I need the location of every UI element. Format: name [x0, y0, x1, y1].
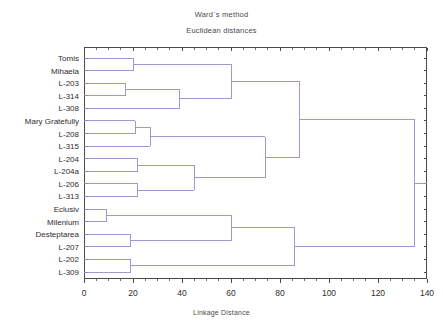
plot-frame — [84, 47, 427, 279]
x-axis-title: Linkage Distance — [0, 309, 443, 316]
leaf-label: L-315 — [0, 142, 84, 151]
x-tick-label: 120 — [371, 288, 385, 298]
leaf-label: Mary Gratefully — [0, 116, 84, 125]
leaf-label: L-204 — [0, 154, 84, 163]
leaf-label: L-204a — [0, 167, 84, 176]
leaf-label: Eclusiv — [0, 205, 84, 214]
leaf-label: L-313 — [0, 192, 84, 201]
leaf-label: L-203 — [0, 79, 84, 88]
x-tick-label: 60 — [226, 288, 235, 298]
leaf-label: L-309 — [0, 268, 84, 277]
x-tick-label: 40 — [177, 288, 186, 298]
x-tick-label: 0 — [82, 288, 87, 298]
x-tick-label: 20 — [128, 288, 137, 298]
leaf-label: L-202 — [0, 255, 84, 264]
x-tick-label: 80 — [275, 288, 284, 298]
leaf-label: Tomis — [0, 54, 84, 63]
leaf-label: L-208 — [0, 129, 84, 138]
leaf-label: Desteptarea — [0, 230, 84, 239]
leaf-label: L-207 — [0, 242, 84, 251]
dendrogram-figure: Ward`s method Euclidean distances TomisM… — [0, 0, 443, 326]
chart-title: Ward`s method — [0, 10, 443, 19]
leaf-label: L-314 — [0, 91, 84, 100]
leaf-label: Milenium — [0, 217, 84, 226]
leaf-label: L-308 — [0, 104, 84, 113]
x-tick-label: 100 — [322, 288, 336, 298]
leaf-label: Mihaela — [0, 66, 84, 75]
chart-subtitle: Euclidean distances — [0, 26, 443, 35]
x-tick-label: 140 — [420, 288, 434, 298]
leaf-label: L-206 — [0, 179, 84, 188]
